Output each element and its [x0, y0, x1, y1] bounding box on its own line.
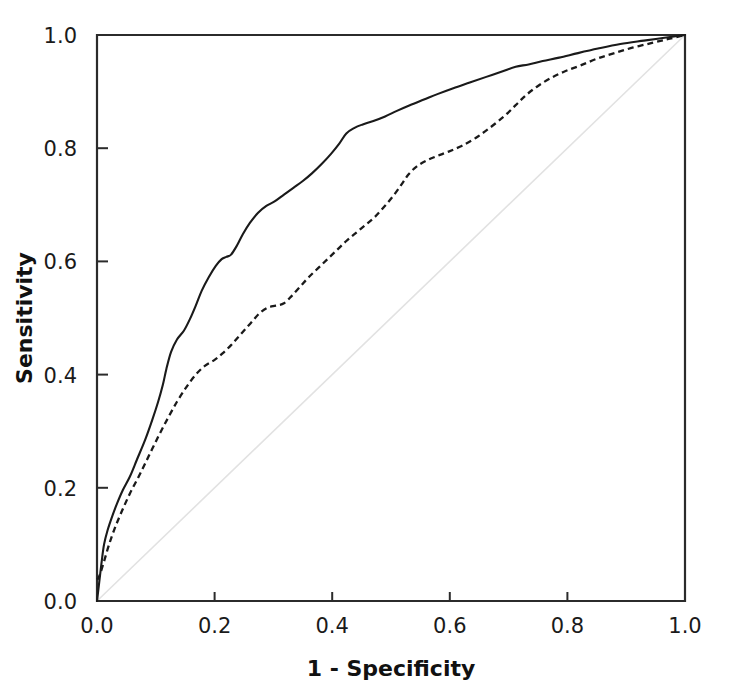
x-tick-label: 0.6	[433, 614, 466, 638]
y-axis-title: Sensitivity	[12, 252, 37, 384]
x-tick-label: 0.4	[315, 614, 348, 638]
y-tick-label: 0.2	[44, 477, 77, 501]
x-tick-label: 0.2	[198, 614, 231, 638]
x-tick-label: 0.8	[551, 614, 584, 638]
x-tick-label: 0.0	[80, 614, 113, 638]
roc-chart-figure: 0.00.20.40.60.81.0 0.00.20.40.60.81.0 1 …	[0, 0, 730, 695]
y-tick-label: 0.0	[44, 590, 77, 614]
plot-background	[0, 0, 730, 695]
y-tick-label: 0.4	[44, 364, 77, 388]
y-tick-label: 0.6	[44, 250, 77, 274]
y-tick-label: 0.8	[44, 137, 77, 161]
x-tick-label: 1.0	[668, 614, 701, 638]
y-tick-label: 1.0	[44, 24, 77, 48]
x-axis-title: 1 - Specificity	[307, 656, 476, 681]
roc-chart-svg: 0.00.20.40.60.81.0 0.00.20.40.60.81.0 1 …	[0, 0, 730, 695]
